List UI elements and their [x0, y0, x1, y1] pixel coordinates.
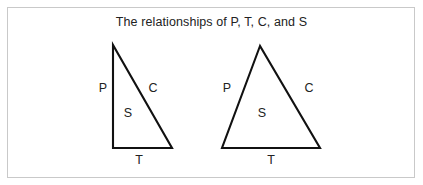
- left-triangle-label-s: S: [121, 107, 135, 120]
- right-triangle-label-t: T: [264, 154, 278, 167]
- triangles-diagram: [0, 0, 423, 185]
- figure-root: The relationships of P, T, C, and S P C …: [0, 0, 423, 185]
- right-triangle-label-p: P: [220, 82, 234, 95]
- right-triangle-label-c: C: [302, 82, 316, 95]
- right-triangle-label-s: S: [255, 107, 269, 120]
- left-triangle-label-p: P: [96, 82, 110, 95]
- left-triangle-label-t: T: [132, 154, 146, 167]
- right-triangle-shape: [222, 46, 320, 148]
- left-triangle-label-c: C: [146, 82, 160, 95]
- left-triangle-shape: [113, 45, 172, 148]
